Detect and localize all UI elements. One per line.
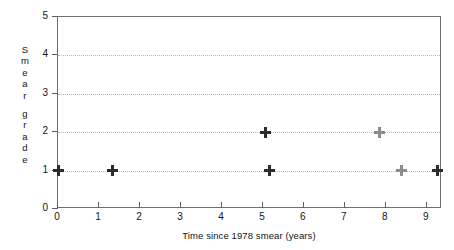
x-tick-mark (262, 202, 263, 208)
x-tick-label: 5 (250, 211, 274, 222)
gridline (58, 94, 440, 95)
x-tick-label: 8 (373, 211, 397, 222)
x-tick-label: 1 (86, 211, 110, 222)
x-tick-mark (385, 202, 386, 208)
gridline (58, 132, 440, 133)
y-tick-label: 2 (28, 125, 48, 136)
x-axis-label: Time since 1978 smear (years) (57, 230, 441, 241)
x-tick-mark (303, 202, 304, 208)
x-tick-label: 3 (168, 211, 192, 222)
x-tick-mark (98, 202, 99, 208)
x-tick-label: 7 (332, 211, 356, 222)
y-axis-label-char: d (14, 142, 36, 153)
y-axis-label-char: e (14, 67, 36, 78)
x-tick-label: 6 (291, 211, 315, 222)
x-tick-mark (344, 202, 345, 208)
y-axis-label: Smeargrade (14, 44, 36, 165)
x-tick-label: 0 (45, 211, 69, 222)
chart-figure: Smeargrade 012345 0123456789 Time since … (0, 0, 454, 250)
x-tick-mark (57, 202, 58, 208)
x-tick-mark (180, 202, 181, 208)
x-tick-mark (221, 202, 222, 208)
x-tick-mark (426, 202, 427, 208)
gridline (58, 171, 440, 172)
plot-area (57, 16, 441, 208)
y-tick-label: 4 (28, 48, 48, 59)
y-axis-label-char: g (14, 108, 36, 119)
y-tick-mark (52, 208, 58, 209)
x-tick-label: 9 (414, 211, 438, 222)
x-tick-mark (139, 202, 140, 208)
y-axis-label-word-gap (14, 101, 36, 108)
y-tick-label: 3 (28, 87, 48, 98)
y-tick-label: 5 (28, 10, 48, 21)
y-tick-label: 1 (28, 164, 48, 175)
x-tick-label: 4 (209, 211, 233, 222)
x-tick-label: 2 (127, 211, 151, 222)
gridline (58, 55, 440, 56)
